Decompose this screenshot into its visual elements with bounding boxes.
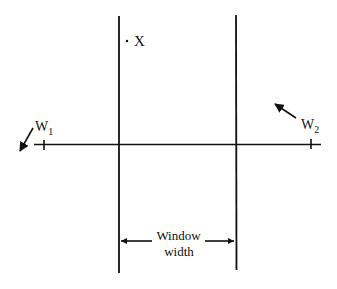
window-width-label-line1: Window xyxy=(156,228,201,243)
w2-arrow-icon xyxy=(275,104,296,118)
w1-arrow-icon xyxy=(20,128,33,151)
diagram-canvas: X W1 W2 Window width xyxy=(0,0,337,289)
w1-label: W1 xyxy=(35,119,53,137)
point-x-dot xyxy=(126,40,128,42)
point-x-label: X xyxy=(134,33,145,49)
window-width-label-line2: width xyxy=(164,244,194,259)
window-right-boundary xyxy=(236,15,237,270)
w2-label: W2 xyxy=(301,117,319,135)
